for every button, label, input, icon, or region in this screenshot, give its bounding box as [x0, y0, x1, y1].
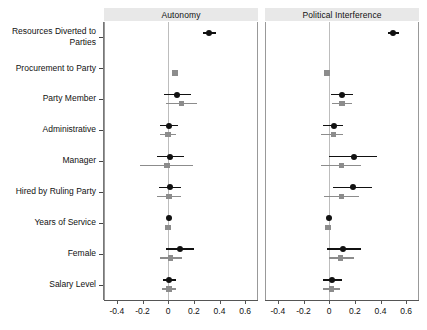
y-tick-6: [99, 223, 103, 224]
x-tick-autonomy-5: [245, 300, 246, 304]
point-marker-square: [172, 70, 178, 76]
x-tick-political_interference-4: [381, 300, 382, 304]
x-axis-line-autonomy: [104, 300, 258, 301]
coefficient-plot: Autonomy-0.4-0.200.20.40.6Political Inte…: [0, 0, 427, 330]
x-tick-label-autonomy-3: 0.2: [188, 306, 200, 316]
point-marker-square: [329, 286, 335, 292]
y-axis-label-5: Hired by Ruling Party: [0, 186, 96, 197]
point-marker-square: [179, 101, 185, 107]
point-marker-square: [331, 132, 337, 138]
x-tick-autonomy-3: [194, 300, 195, 304]
y-axis-label-7: Female: [0, 248, 96, 259]
y-axis-label-2: Party Member: [0, 93, 96, 104]
point-marker-square: [324, 70, 330, 76]
y-tick-4: [99, 161, 103, 162]
point-marker-square: [164, 163, 170, 169]
point-marker-square: [166, 286, 172, 292]
x-tick-label-autonomy-5: 0.6: [239, 306, 251, 316]
point-marker-square: [166, 194, 172, 200]
x-tick-label-political_interference-0: -0.4: [271, 306, 286, 316]
x-tick-label-political_interference-2: 0: [327, 306, 332, 316]
panel-header-autonomy: Autonomy: [104, 8, 258, 21]
x-tick-autonomy-1: [143, 300, 144, 304]
y-axis-label-3: Administrative: [0, 124, 96, 135]
point-marker-circle: [326, 215, 332, 221]
point-marker-square: [339, 194, 345, 200]
panel-title-autonomy: Autonomy: [161, 10, 200, 20]
point-marker-circle: [351, 154, 357, 160]
point-marker-square: [165, 225, 171, 231]
point-marker-circle: [167, 154, 173, 160]
point-marker-circle: [339, 92, 345, 98]
x-tick-label-political_interference-1: -0.2: [296, 306, 311, 316]
x-axis-line-political_interference: [265, 300, 419, 301]
y-axis-line: [103, 22, 104, 300]
point-marker-circle: [340, 246, 346, 252]
point-marker-circle: [177, 246, 183, 252]
y-tick-7: [99, 254, 103, 255]
y-tick-8: [99, 285, 103, 286]
x-tick-label-autonomy-4: 0.4: [214, 306, 226, 316]
x-tick-label-autonomy-1: -0.2: [135, 306, 150, 316]
x-tick-label-political_interference-3: 0.2: [349, 306, 361, 316]
point-marker-square: [339, 163, 345, 169]
point-marker-circle: [331, 123, 337, 129]
y-axis-label-1: Procurement to Party: [0, 63, 96, 74]
panel-title-political_interference: Political Interference: [302, 10, 381, 20]
x-tick-political_interference-5: [406, 300, 407, 304]
point-marker-square: [165, 132, 171, 138]
point-marker-square: [325, 225, 331, 231]
x-tick-political_interference-3: [355, 300, 356, 304]
x-tick-label-political_interference-4: 0.4: [375, 306, 387, 316]
x-tick-label-autonomy-0: -0.4: [110, 306, 125, 316]
y-axis-label-6: Years of Service: [0, 217, 96, 228]
x-tick-label-political_interference-5: 0.6: [400, 306, 412, 316]
y-tick-1: [99, 68, 103, 69]
x-tick-political_interference-1: [304, 300, 305, 304]
y-axis-label-0: Resources Diverted to Parties: [0, 26, 96, 47]
y-tick-2: [99, 99, 103, 100]
y-axis-label-8: Salary Level: [0, 279, 96, 290]
y-axis-label-4: Manager: [0, 155, 96, 166]
point-marker-square: [338, 255, 344, 261]
y-tick-3: [99, 130, 103, 131]
x-tick-label-autonomy-2: 0: [166, 306, 171, 316]
point-marker-square: [339, 101, 345, 107]
y-tick-0: [99, 37, 103, 38]
x-tick-political_interference-2: [329, 300, 330, 304]
panel-header-political_interference: Political Interference: [265, 8, 419, 21]
x-tick-autonomy-4: [220, 300, 221, 304]
point-marker-circle: [174, 92, 180, 98]
x-tick-political_interference-0: [278, 300, 279, 304]
y-tick-5: [99, 192, 103, 193]
x-tick-autonomy-0: [117, 300, 118, 304]
x-tick-autonomy-2: [168, 300, 169, 304]
point-marker-square: [168, 255, 174, 261]
